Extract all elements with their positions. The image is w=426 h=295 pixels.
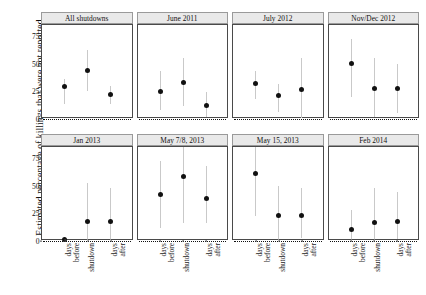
- data-point-marker: [181, 174, 186, 179]
- x-tick-label-line: shutdown: [279, 243, 287, 272]
- figure: Estimated percentage of killings that we…: [0, 0, 426, 295]
- data-point-marker: [253, 81, 258, 86]
- panel-strip-label: July 2012: [232, 12, 324, 24]
- data-point-marker: [62, 84, 67, 89]
- x-tick-label-line: before: [169, 243, 177, 262]
- plot-area: [137, 24, 229, 118]
- x-tick-label-line: after: [214, 243, 222, 257]
- data-point-marker: [276, 213, 281, 218]
- y-tick-label: 0: [36, 237, 40, 246]
- x-tick-mark: [278, 239, 279, 242]
- panel-strip-label: Jan 2013: [41, 134, 133, 146]
- x-tick-mark: [255, 239, 256, 242]
- y-tick-mark: [40, 241, 43, 242]
- panel-grid: All shutdowns0255075June 2011July 2012No…: [41, 12, 419, 240]
- x-tick-mark: [183, 239, 184, 242]
- x-tick-label-line: shutdown: [183, 243, 191, 272]
- data-point-marker: [253, 171, 258, 176]
- panel-may-7-8-2013: May 7/8, 2013daysbeforeshutdowndaysafter: [137, 134, 229, 240]
- x-tick-label-line: shutdown: [374, 243, 382, 272]
- panel-july-2012: July 2012: [232, 12, 324, 118]
- plot-area: [232, 24, 324, 118]
- plot-area: 0255075daysbeforeshutdowndaysafter: [41, 146, 133, 240]
- panel-nov-dec-2012: Nov/Dec 2012: [328, 12, 420, 118]
- panel-jan-2013: Jan 20130255075daysbeforeshutdowndaysaft…: [41, 134, 133, 240]
- zero-reference-line: [43, 119, 131, 120]
- data-point-marker: [395, 219, 400, 224]
- x-tick-label-line: after: [310, 243, 318, 257]
- panel-strip-label: Nov/Dec 2012: [328, 12, 420, 24]
- data-point-marker: [204, 196, 209, 201]
- error-bar: [87, 183, 88, 239]
- x-tick-label-line: after: [119, 243, 127, 257]
- y-tick-label: 25: [32, 209, 40, 218]
- y-tick-label: 25: [32, 87, 40, 96]
- error-bar: [351, 210, 352, 240]
- y-tick-label: 75: [32, 32, 40, 41]
- panel-all-shutdowns: All shutdowns0255075: [41, 12, 133, 118]
- panel-may-15-2013: May 15, 2013daysbeforeshutdowndaysafter: [232, 134, 324, 240]
- panel-strip-label: May 15, 2013: [232, 134, 324, 146]
- error-bar: [206, 166, 207, 224]
- x-tick-label-line: shutdown: [88, 243, 96, 272]
- plot-area: 0255075: [41, 24, 133, 118]
- y-tick-label: 0: [36, 115, 40, 124]
- x-tick-label-line: before: [264, 243, 272, 262]
- error-bar: [351, 39, 352, 97]
- data-point-marker: [158, 192, 163, 197]
- x-tick-mark: [374, 239, 375, 242]
- data-point-marker: [349, 61, 354, 66]
- data-point-marker: [85, 68, 90, 73]
- data-point-marker: [158, 89, 163, 94]
- plot-area: [328, 24, 420, 118]
- y-tick-mark: [40, 119, 43, 120]
- x-tick-mark: [206, 239, 207, 242]
- error-bar: [64, 79, 65, 103]
- data-point-marker: [108, 92, 113, 97]
- plot-area: daysbeforeshutdowndaysafter: [232, 146, 324, 240]
- data-point-marker: [204, 103, 209, 108]
- x-tick-label-line: before: [73, 243, 81, 262]
- x-tick-mark: [64, 239, 65, 242]
- data-point-marker: [395, 86, 400, 91]
- data-point-marker: [276, 93, 281, 98]
- x-tick-mark: [301, 239, 302, 242]
- data-point-marker: [85, 219, 90, 224]
- x-tick-mark: [351, 239, 352, 242]
- error-bar: [397, 192, 398, 238]
- y-tick-label: 50: [32, 181, 40, 190]
- panel-june-2011: June 2011: [137, 12, 229, 118]
- x-tick-mark: [397, 239, 398, 242]
- x-tick-mark: [87, 239, 88, 242]
- zero-reference-line: [234, 119, 322, 120]
- zero-reference-line: [139, 119, 227, 120]
- panel-strip-label: All shutdowns: [41, 12, 133, 24]
- data-point-marker: [181, 80, 186, 85]
- zero-reference-line: [330, 119, 418, 120]
- data-point-marker: [349, 227, 354, 232]
- x-tick-mark: [110, 239, 111, 242]
- data-point-marker: [299, 213, 304, 218]
- plot-area: daysbeforeshutdowndaysafter: [328, 146, 420, 240]
- panel-feb-2014: Feb 2014daysbeforeshutdowndaysafter: [328, 134, 420, 240]
- y-tick-label: 75: [32, 154, 40, 163]
- x-tick-mark: [160, 239, 161, 242]
- panel-strip-label: May 7/8, 2013: [137, 134, 229, 146]
- plot-area: daysbeforeshutdowndaysafter: [137, 146, 229, 240]
- x-tick-label-line: after: [405, 243, 413, 257]
- y-tick-label: 50: [32, 59, 40, 68]
- error-bar: [374, 188, 375, 240]
- data-point-marker: [299, 87, 304, 92]
- error-bar: [110, 188, 111, 240]
- data-point-marker: [108, 219, 113, 224]
- data-point-marker: [372, 86, 377, 91]
- panel-strip-label: Feb 2014: [328, 134, 420, 146]
- x-tick-label-line: before: [360, 243, 368, 262]
- error-bar: [255, 147, 256, 216]
- panel-strip-label: June 2011: [137, 12, 229, 24]
- error-bar: [183, 147, 184, 223]
- data-point-marker: [372, 220, 377, 225]
